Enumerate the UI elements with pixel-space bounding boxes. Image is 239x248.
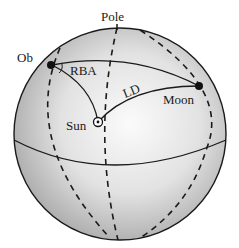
label-observer: Ob: [17, 50, 33, 65]
moon-point: [195, 82, 203, 90]
observer-point: [47, 61, 55, 69]
label-sun: Sun: [66, 118, 87, 133]
sphere: [14, 28, 226, 240]
label-pole: Pole: [101, 9, 124, 24]
label-rba: RBA: [70, 63, 97, 78]
sun-center-dot: [97, 121, 100, 124]
label-moon: Moon: [163, 92, 195, 107]
celestial-sphere-diagram: Pole Ob RBA LD Moon Sun: [0, 0, 239, 248]
